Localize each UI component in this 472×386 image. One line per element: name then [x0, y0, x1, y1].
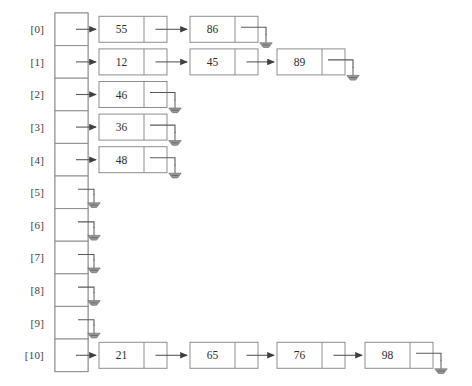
ground-null-symbol-bucket-5 [88, 194, 100, 207]
array-column [55, 13, 88, 372]
array-index-label-4: [4] [31, 154, 44, 166]
list-node-box-4-0 [99, 147, 167, 173]
array-index-label-5: [5] [31, 186, 44, 198]
array-slot-5 [55, 176, 88, 209]
list-node: 48 [99, 147, 167, 173]
hash-table-chaining-figure: [0][1][2][3][4][5][6][7][8][9][10] 55861… [0, 0, 472, 386]
list-node-value-10-3: 98 [382, 349, 394, 361]
array-index-label-7: [7] [31, 251, 44, 263]
ground-null-symbol-bucket-6 [88, 227, 100, 240]
list-node-value-4-0: 48 [116, 154, 128, 166]
list-node-box-1-2 [277, 49, 345, 75]
diagram-svg: [0][1][2][3][4][5][6][7][8][9][10] 55861… [0, 0, 472, 386]
array-index-label-0: [0] [31, 23, 44, 35]
array-index-labels: [0][1][2][3][4][5][6][7][8][9][10] [25, 23, 44, 361]
list-node: 86 [190, 16, 258, 42]
array-slot-9 [55, 306, 88, 339]
list-node-box-10-3 [365, 342, 433, 368]
ground-null-symbol-bucket-7 [88, 260, 100, 273]
list-node: 46 [99, 82, 167, 108]
list-node-value-0-1: 86 [207, 23, 219, 35]
list-node-box-2-0 [99, 82, 167, 108]
array-index-label-1: [1] [31, 56, 44, 68]
array-index-label-6: [6] [31, 219, 44, 231]
ground-null-symbol-bucket-3 [169, 132, 181, 145]
ground-null-symbol-bucket-0 [260, 34, 272, 47]
list-node-value-2-0: 46 [116, 89, 128, 101]
ground-null-symbol-bucket-10 [435, 360, 447, 373]
ground-null-symbol-bucket-2 [169, 100, 181, 113]
ground-null-symbol-bucket-9 [88, 325, 100, 338]
ground-null-symbol-bucket-4 [169, 165, 181, 178]
list-node-value-3-0: 36 [116, 121, 128, 133]
list-node-box-0-1 [190, 16, 258, 42]
array-index-label-3: [3] [31, 121, 44, 133]
list-node-value-10-1: 65 [207, 349, 219, 361]
array-slot-8 [55, 274, 88, 307]
list-node: 89 [277, 49, 345, 75]
array-index-label-10: [10] [25, 349, 44, 361]
list-node-value-1-0: 12 [116, 56, 128, 68]
array-slot-7 [55, 241, 88, 274]
ground-null-symbol-bucket-8 [88, 292, 100, 305]
list-node: 98 [365, 342, 433, 368]
list-node-value-10-0: 21 [116, 349, 128, 361]
array-index-label-2: [2] [31, 88, 44, 100]
figure-canvas: [0][1][2][3][4][5][6][7][8][9][10] 55861… [0, 0, 472, 386]
list-node-value-10-2: 76 [294, 349, 306, 361]
list-node: 36 [99, 114, 167, 140]
list-node-value-1-2: 89 [294, 56, 306, 68]
chain-nodes: 558612458946364821657698 [76, 16, 447, 373]
array-index-label-8: [8] [31, 284, 44, 296]
ground-null-symbol-bucket-1 [347, 67, 359, 80]
array-index-label-9: [9] [31, 317, 44, 329]
array-slot-6 [55, 209, 88, 242]
list-node-box-3-0 [99, 114, 167, 140]
list-node-value-0-0: 55 [116, 23, 128, 35]
list-node-value-1-1: 45 [207, 56, 219, 68]
